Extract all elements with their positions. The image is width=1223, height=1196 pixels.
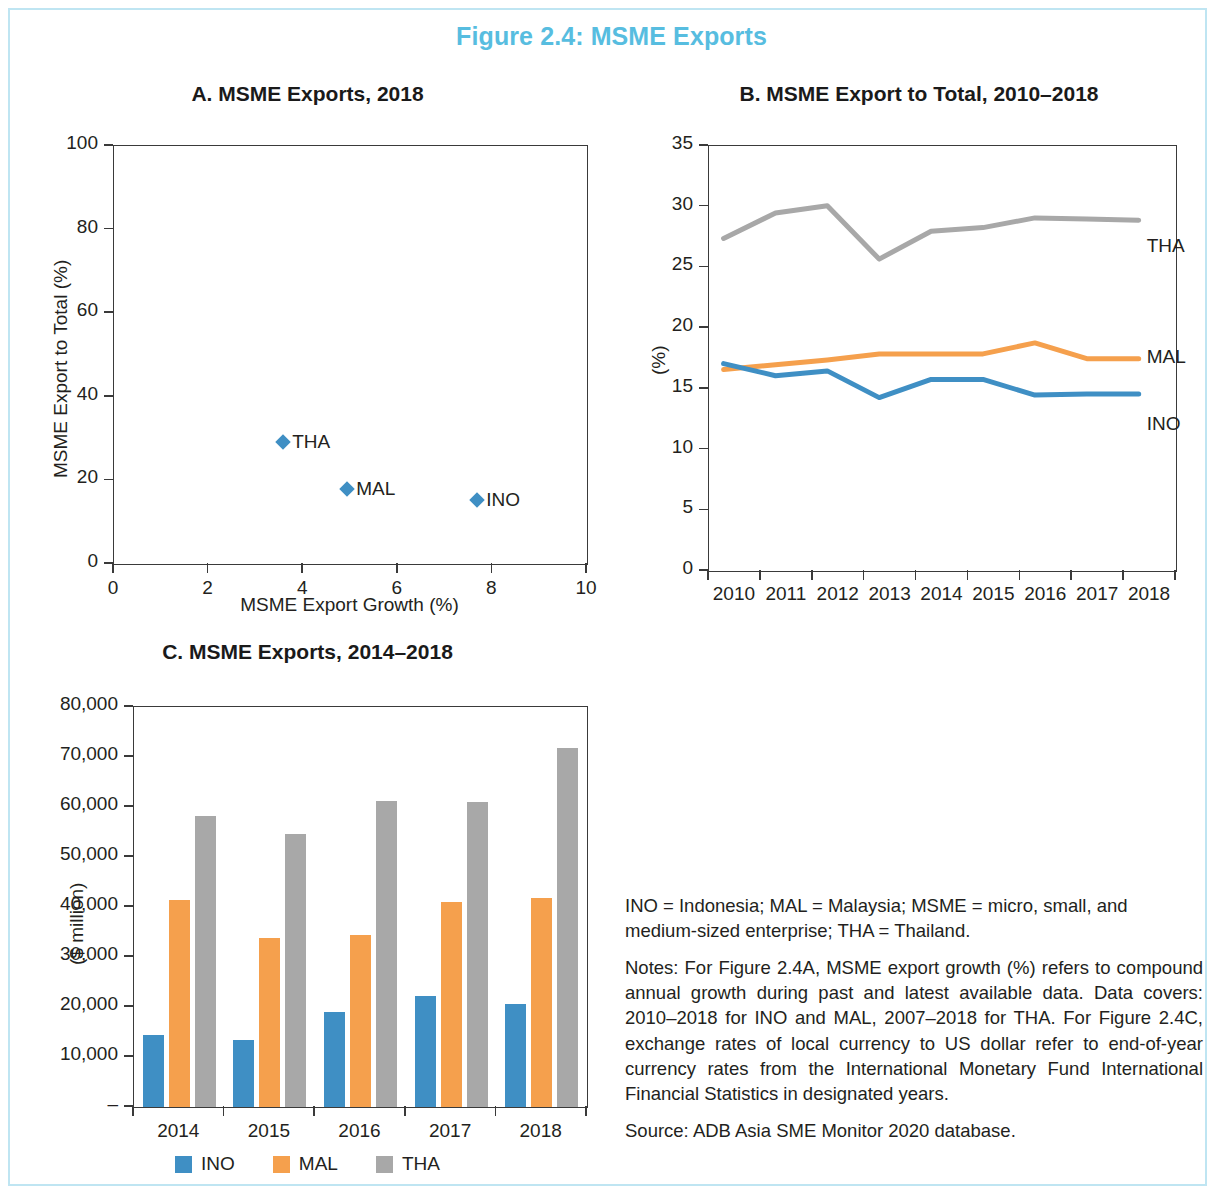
bar-mal bbox=[169, 900, 190, 1108]
x-tick-label: 2015 bbox=[224, 1120, 315, 1142]
x-tick bbox=[1070, 570, 1072, 580]
x-tick bbox=[301, 563, 303, 573]
y-tick bbox=[124, 755, 133, 757]
x-tick bbox=[1019, 570, 1021, 580]
series-label-mal: MAL bbox=[1147, 346, 1186, 368]
panel-b-title: B. MSME Export to Total, 2010–2018 bbox=[615, 82, 1223, 106]
bar-mal bbox=[441, 902, 462, 1107]
x-tick bbox=[915, 570, 917, 580]
x-tick-label: 2010 bbox=[708, 583, 760, 605]
panel-c-plot-area bbox=[133, 706, 588, 1108]
panel-c-legend: INOMALTHA bbox=[0, 1153, 615, 1175]
x-tick bbox=[223, 1106, 225, 1116]
y-tick bbox=[699, 144, 708, 146]
bar-mal bbox=[259, 938, 280, 1107]
legend-swatch-ino bbox=[175, 1156, 192, 1173]
x-tick-label: 2018 bbox=[1123, 583, 1175, 605]
abbreviations-text: INO = Indonesia; MAL = Malaysia; MSME = … bbox=[625, 893, 1203, 944]
y-tick bbox=[104, 311, 113, 313]
y-tick-label: 40 bbox=[0, 383, 98, 405]
legend-item-mal[interactable]: MAL bbox=[273, 1153, 338, 1175]
legend-label-ino: INO bbox=[201, 1153, 235, 1175]
y-tick-label: 0 bbox=[0, 550, 98, 572]
y-tick bbox=[699, 205, 708, 207]
legend-item-ino[interactable]: INO bbox=[175, 1153, 235, 1175]
bar-ino bbox=[505, 1004, 526, 1107]
y-tick bbox=[699, 387, 708, 389]
x-tick bbox=[207, 563, 209, 573]
x-tick-label: 2013 bbox=[864, 583, 916, 605]
bar-ino bbox=[143, 1035, 164, 1108]
series-line-tha bbox=[724, 206, 1139, 259]
y-tick bbox=[104, 228, 113, 230]
y-tick bbox=[699, 266, 708, 268]
y-tick-label: 10 bbox=[615, 436, 693, 458]
x-tick-label: 2016 bbox=[1019, 583, 1071, 605]
x-tick bbox=[313, 1106, 315, 1116]
legend-item-tha[interactable]: THA bbox=[376, 1153, 440, 1175]
series-line-mal bbox=[724, 343, 1139, 370]
y-tick bbox=[124, 705, 133, 707]
x-tick-label: 2017 bbox=[405, 1120, 496, 1142]
panel-b-series-lines bbox=[708, 145, 1175, 570]
y-tick bbox=[104, 395, 113, 397]
x-tick bbox=[967, 570, 969, 580]
x-tick-end bbox=[1174, 570, 1176, 580]
x-tick-label: 2018 bbox=[495, 1120, 586, 1142]
source-text: Source: ADB Asia SME Monitor 2020 databa… bbox=[625, 1118, 1203, 1143]
x-tick bbox=[585, 563, 587, 573]
y-tick-label: 60,000 bbox=[0, 793, 118, 815]
panel-b-y-axis-title: (%) bbox=[648, 345, 670, 375]
y-tick bbox=[124, 905, 133, 907]
y-tick bbox=[124, 805, 133, 807]
bar-ino bbox=[233, 1040, 254, 1108]
x-tick-label: 2012 bbox=[812, 583, 864, 605]
x-tick bbox=[759, 570, 761, 580]
y-tick-label: 30 bbox=[615, 193, 693, 215]
y-tick-label: 10,000 bbox=[0, 1043, 118, 1065]
panel-a-x-axis-title: MSME Export Growth (%) bbox=[113, 594, 586, 616]
panel-a-y-axis-title: MSME Export to Total (%) bbox=[50, 260, 72, 478]
y-tick-label: 30,000 bbox=[0, 943, 118, 965]
y-tick-label: 100 bbox=[0, 132, 98, 154]
notes-text: Notes: For Figure 2.4A, MSME export grow… bbox=[625, 955, 1203, 1107]
x-tick bbox=[811, 570, 813, 580]
y-tick bbox=[124, 1055, 133, 1057]
x-tick bbox=[112, 563, 114, 573]
y-tick-label: 0 bbox=[615, 557, 693, 579]
x-tick-label: 2011 bbox=[760, 583, 812, 605]
x-tick bbox=[132, 1106, 134, 1116]
scatter-marker-label: MAL bbox=[356, 478, 395, 500]
x-tick-end bbox=[585, 1106, 587, 1116]
x-tick-label: 2015 bbox=[967, 583, 1019, 605]
x-tick bbox=[863, 570, 865, 580]
y-tick bbox=[124, 1005, 133, 1007]
y-tick-label: 40,000 bbox=[0, 893, 118, 915]
series-label-ino: INO bbox=[1147, 413, 1181, 435]
legend-label-tha: THA bbox=[402, 1153, 440, 1175]
bar-mal bbox=[531, 898, 552, 1107]
y-tick bbox=[699, 326, 708, 328]
panel-c-y-axis-title: ($ million) bbox=[66, 883, 88, 965]
x-tick-label: 2017 bbox=[1071, 583, 1123, 605]
panel-c-bar: C. MSME Exports, 2014–2018 –10,00020,000… bbox=[0, 620, 615, 1196]
series-label-tha: THA bbox=[1147, 235, 1185, 257]
x-tick-label: 2014 bbox=[133, 1120, 224, 1142]
legend-swatch-tha bbox=[376, 1156, 393, 1173]
y-tick bbox=[124, 955, 133, 957]
y-tick-label: 35 bbox=[615, 132, 693, 154]
bar-tha bbox=[285, 834, 306, 1108]
scatter-marker-label: INO bbox=[486, 489, 520, 511]
y-tick bbox=[104, 479, 113, 481]
legend-swatch-mal bbox=[273, 1156, 290, 1173]
x-tick bbox=[396, 563, 398, 573]
legend-label-mal: MAL bbox=[299, 1153, 338, 1175]
x-tick bbox=[404, 1106, 406, 1116]
y-tick-label: 70,000 bbox=[0, 743, 118, 765]
y-tick-label: 80,000 bbox=[0, 693, 118, 715]
bar-mal bbox=[350, 935, 371, 1108]
panel-a-title: A. MSME Exports, 2018 bbox=[0, 82, 615, 106]
y-tick-label: 25 bbox=[615, 253, 693, 275]
x-tick bbox=[707, 570, 709, 580]
y-tick bbox=[699, 509, 708, 511]
